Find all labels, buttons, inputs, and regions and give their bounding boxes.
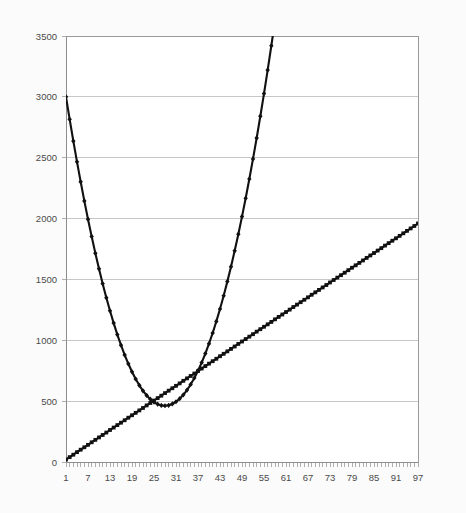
data-point-marker bbox=[313, 290, 317, 294]
data-point-marker bbox=[86, 443, 90, 447]
data-point-marker bbox=[189, 374, 193, 378]
data-point-marker bbox=[97, 436, 101, 440]
data-point-marker bbox=[390, 239, 394, 243]
data-point-marker bbox=[350, 266, 354, 270]
data-point-marker bbox=[167, 389, 171, 393]
data-point-marker bbox=[211, 359, 215, 363]
data-point-marker bbox=[295, 303, 299, 307]
x-tick-label: 43 bbox=[215, 472, 226, 483]
data-point-marker bbox=[379, 246, 383, 250]
data-point-marker bbox=[214, 357, 218, 361]
x-tick-label: 61 bbox=[281, 472, 292, 483]
data-point-marker bbox=[163, 391, 167, 395]
data-point-marker bbox=[368, 254, 372, 258]
chart-plot: 0500100015002000250030003500 17131925313… bbox=[0, 0, 466, 513]
data-point-marker bbox=[115, 423, 119, 427]
x-tick-label: 49 bbox=[237, 472, 248, 483]
data-point-marker bbox=[203, 364, 207, 368]
data-point-marker bbox=[79, 448, 83, 452]
x-tick-label: 13 bbox=[105, 472, 116, 483]
data-point-marker bbox=[247, 335, 251, 339]
data-point-marker bbox=[233, 345, 237, 349]
data-point-marker bbox=[346, 268, 350, 272]
data-point-marker bbox=[343, 271, 347, 275]
data-point-marker bbox=[262, 325, 266, 329]
data-point-marker bbox=[365, 256, 369, 260]
data-point-marker bbox=[306, 295, 310, 299]
plot-area-background bbox=[66, 36, 418, 462]
data-point-marker bbox=[266, 322, 270, 326]
y-tick-label: 2500 bbox=[36, 152, 57, 163]
data-point-marker bbox=[119, 421, 123, 425]
data-point-marker bbox=[258, 327, 262, 331]
data-point-marker bbox=[339, 273, 343, 277]
data-point-marker bbox=[251, 332, 255, 336]
x-tick-label: 67 bbox=[303, 472, 314, 483]
data-point-marker bbox=[90, 440, 94, 444]
data-point-marker bbox=[222, 352, 226, 356]
data-point-marker bbox=[332, 278, 336, 282]
data-point-marker bbox=[288, 308, 292, 312]
data-point-marker bbox=[152, 399, 156, 403]
data-point-marker bbox=[93, 438, 97, 442]
x-tick-label: 73 bbox=[325, 472, 336, 483]
x-tick-label: 1 bbox=[63, 472, 68, 483]
data-point-marker bbox=[218, 354, 222, 358]
data-point-marker bbox=[299, 300, 303, 304]
x-tick-label: 55 bbox=[259, 472, 270, 483]
data-point-marker bbox=[328, 281, 332, 285]
data-point-marker bbox=[236, 342, 240, 346]
data-point-marker bbox=[405, 229, 409, 233]
x-tick-label: 7 bbox=[85, 472, 90, 483]
y-tick-label: 1500 bbox=[36, 274, 57, 285]
x-tick-label: 79 bbox=[347, 472, 358, 483]
data-point-marker bbox=[387, 241, 391, 245]
y-tick-label: 2000 bbox=[36, 213, 57, 224]
data-point-marker bbox=[354, 263, 358, 267]
data-point-marker bbox=[134, 411, 138, 415]
data-point-marker bbox=[130, 413, 134, 417]
data-point-marker bbox=[178, 381, 182, 385]
data-point-marker bbox=[200, 367, 204, 371]
data-point-marker bbox=[383, 244, 387, 248]
data-point-marker bbox=[255, 330, 259, 334]
data-point-marker bbox=[192, 372, 196, 376]
data-point-marker bbox=[145, 404, 149, 408]
y-tick-label: 3500 bbox=[36, 31, 57, 42]
y-tick-label: 3000 bbox=[36, 91, 57, 102]
x-tick-label: 85 bbox=[369, 472, 380, 483]
data-point-marker bbox=[141, 406, 145, 410]
data-point-marker bbox=[101, 433, 105, 437]
data-point-marker bbox=[398, 234, 402, 238]
data-point-marker bbox=[310, 293, 314, 297]
data-point-marker bbox=[71, 453, 75, 457]
data-point-marker bbox=[302, 298, 306, 302]
data-point-marker bbox=[123, 418, 127, 422]
y-tick-label: 500 bbox=[41, 396, 57, 407]
data-point-marker bbox=[104, 431, 108, 435]
x-tick-label: 91 bbox=[391, 472, 402, 483]
data-point-marker bbox=[280, 313, 284, 317]
x-tick-label: 31 bbox=[171, 472, 182, 483]
data-point-marker bbox=[284, 310, 288, 314]
data-point-marker bbox=[126, 416, 130, 420]
data-point-marker bbox=[148, 401, 152, 405]
data-point-marker bbox=[112, 426, 116, 430]
data-point-marker bbox=[156, 396, 160, 400]
data-point-marker bbox=[317, 288, 321, 292]
data-point-marker bbox=[170, 386, 174, 390]
data-point-marker bbox=[75, 450, 79, 454]
data-point-marker bbox=[82, 445, 86, 449]
data-point-marker bbox=[269, 320, 273, 324]
data-point-marker bbox=[240, 340, 244, 344]
data-point-marker bbox=[273, 317, 277, 321]
data-point-marker bbox=[321, 286, 325, 290]
data-point-marker bbox=[244, 337, 248, 341]
data-point-marker bbox=[409, 227, 413, 231]
data-point-marker bbox=[196, 369, 200, 373]
data-point-marker bbox=[357, 261, 361, 265]
y-tick-label: 1000 bbox=[36, 335, 57, 346]
data-point-marker bbox=[185, 376, 189, 380]
data-point-marker bbox=[181, 379, 185, 383]
data-point-marker bbox=[394, 236, 398, 240]
